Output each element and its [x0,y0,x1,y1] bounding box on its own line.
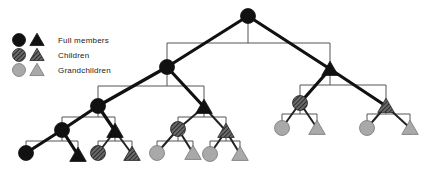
membership-line [167,67,204,107]
full-circle-icon [55,123,70,138]
grand-circle-icon [360,121,375,136]
grand-triangle-icon [232,146,249,160]
grand-triangle-icon [30,63,44,75]
grand-circle-icon [150,146,165,161]
hatched-triangle-icon [124,146,141,160]
hatched-circle-icon [91,146,106,161]
grand-triangle-icon [185,145,202,159]
membership-line [330,69,386,106]
grand-circle-icon [203,147,218,162]
full-triangle-icon [30,33,44,45]
full-triangle-icon [70,147,87,161]
full-circle-icon [91,99,106,114]
hatched-circle-icon [293,96,308,111]
hatched-circle-icon [13,49,26,62]
legend-label-full-members: Full members [58,36,109,45]
family-tree-diagram [0,0,427,169]
membership-line [167,16,248,67]
legend-label-children: Children [58,51,89,60]
full-circle-icon [160,60,175,75]
full-circle-icon [241,9,256,24]
grand-triangle-icon [309,120,326,134]
hatched-triangle-icon [30,48,44,60]
legend-symbols [13,33,45,76]
full-circle-icon [13,34,26,47]
grand-circle-icon [13,64,26,77]
grand-circle-icon [275,121,290,136]
full-circle-icon [19,146,34,161]
full-triangle-icon [322,61,339,75]
hatched-circle-icon [171,122,186,137]
legend-label-grandchildren: Grandchildren [58,66,111,75]
